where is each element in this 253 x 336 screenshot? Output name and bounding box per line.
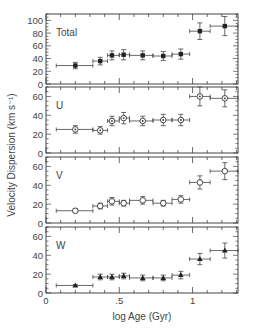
y-tick-label: 20 — [32, 269, 43, 280]
data-point — [108, 274, 120, 280]
y-tick-label: 20 — [32, 199, 43, 210]
y-tick-label: 40 — [32, 110, 43, 121]
data-point — [130, 197, 153, 205]
y-tick-label: 40 — [32, 250, 43, 261]
data-point — [153, 275, 172, 281]
panel-w: 0204060W0.51 — [32, 227, 238, 306]
data-point — [108, 198, 120, 206]
data-point — [119, 112, 129, 123]
panel-label: V — [56, 170, 63, 181]
data-point — [172, 271, 190, 279]
panel-total: 020406080100Total — [27, 14, 238, 90]
data-point — [93, 127, 108, 135]
data-point — [210, 90, 238, 107]
panels: 020406080100Total0204060U0204060V0204060… — [27, 14, 238, 306]
panel-label: Total — [56, 27, 77, 38]
panel-label: W — [56, 240, 66, 251]
data-point — [119, 200, 129, 206]
data-point — [172, 49, 190, 59]
data-point — [210, 163, 238, 180]
data-point — [172, 114, 190, 125]
data-point — [190, 176, 211, 189]
x-tick-label: .5 — [115, 295, 123, 306]
panel-u: 0204060U — [32, 87, 238, 159]
y-tick-label: 20 — [32, 129, 43, 140]
data-point — [172, 196, 190, 204]
panel-frame — [46, 14, 238, 84]
data-point — [119, 50, 129, 60]
data-point — [119, 273, 129, 279]
data-point — [93, 57, 108, 65]
data-point — [56, 62, 93, 68]
y-tick-label: 100 — [27, 15, 43, 26]
data-point — [153, 200, 172, 206]
velocity-dispersion-chart: 020406080100Total0204060U0204060V0204060… — [0, 0, 253, 336]
data-point — [130, 116, 153, 125]
y-tick-label: 60 — [32, 40, 43, 51]
data-point — [153, 52, 172, 61]
x-tick-label: 1 — [190, 295, 195, 306]
x-tick-label: 0 — [43, 295, 48, 306]
data-point — [56, 126, 93, 134]
data-point — [130, 51, 153, 60]
y-tick-label: 80 — [32, 28, 43, 39]
y-tick-label: 0 — [38, 288, 43, 299]
data-point — [93, 203, 108, 209]
panel-frame — [46, 227, 238, 293]
y-tick-label: 20 — [32, 66, 43, 77]
data-point — [108, 116, 120, 125]
y-tick-label: 60 — [32, 231, 43, 242]
y-tick-label: 0 — [38, 148, 43, 159]
data-point — [130, 275, 153, 281]
y-tick-label: 40 — [32, 180, 43, 191]
y-tick-label: 40 — [32, 53, 43, 64]
y-tick-label: 0 — [38, 218, 43, 229]
data-point — [93, 274, 108, 280]
panel-label: U — [56, 100, 63, 111]
data-point — [210, 243, 238, 258]
data-point — [153, 114, 172, 125]
data-point — [56, 208, 93, 214]
data-point — [190, 253, 211, 264]
data-point — [56, 282, 93, 287]
data-point — [190, 23, 211, 40]
panel-v: 0204060V — [32, 157, 238, 229]
y-tick-label: 60 — [32, 161, 43, 172]
y-tick-label: 0 — [38, 79, 43, 90]
data-point — [108, 51, 120, 60]
x-axis-label: log Age (Gyr) — [113, 311, 172, 322]
y-tick-label: 60 — [32, 91, 43, 102]
y-axis-label: Velocity Dispersion (km s⁻¹) — [6, 93, 17, 216]
